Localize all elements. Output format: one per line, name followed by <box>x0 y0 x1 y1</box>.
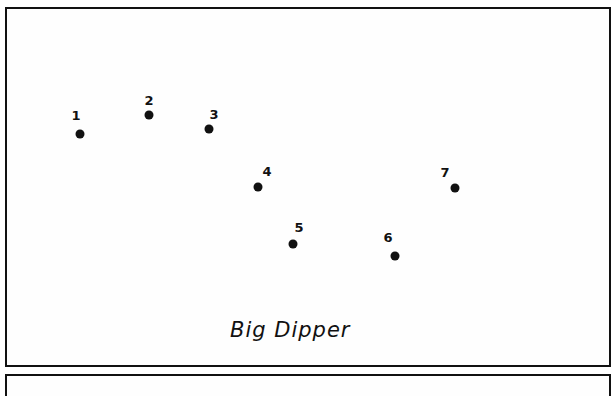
star-label-1: 1 <box>71 109 80 122</box>
star-label-7: 7 <box>440 166 449 179</box>
star-dot-3 <box>205 125 214 134</box>
diagram-panel <box>5 7 611 367</box>
star-dot-6 <box>391 252 400 261</box>
diagram-caption: Big Dipper <box>230 318 350 342</box>
star-label-5: 5 <box>294 221 303 234</box>
star-label-4: 4 <box>262 165 271 178</box>
star-dot-2 <box>145 111 154 120</box>
star-dot-4 <box>254 183 263 192</box>
star-label-3: 3 <box>209 108 218 121</box>
star-label-6: 6 <box>383 231 392 244</box>
star-dot-5 <box>289 240 298 249</box>
next-panel-edge <box>5 374 611 396</box>
star-dot-7 <box>451 184 460 193</box>
star-dot-1 <box>76 130 85 139</box>
star-label-2: 2 <box>144 94 153 107</box>
